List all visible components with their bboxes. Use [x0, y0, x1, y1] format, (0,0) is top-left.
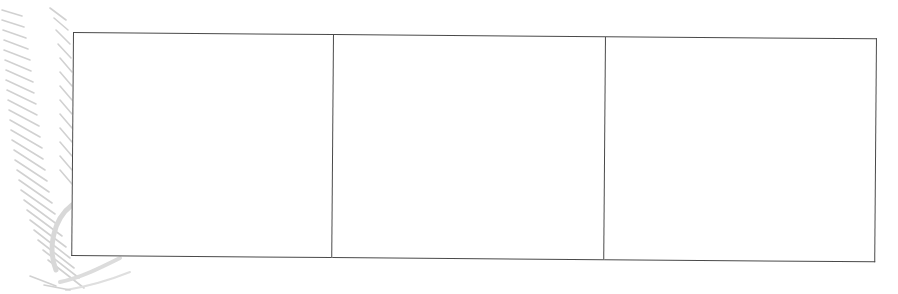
table-cell-3 [604, 37, 877, 262]
table-container [71, 32, 876, 262]
table-row [72, 33, 877, 262]
table-cell-1 [72, 33, 334, 258]
empty-table [71, 32, 877, 262]
table-cell-2 [332, 35, 606, 260]
document-page [0, 0, 898, 294]
